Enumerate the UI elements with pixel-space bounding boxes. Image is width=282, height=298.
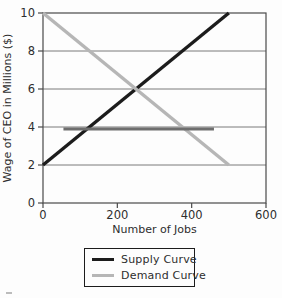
y-tick-label: 0 [28,196,35,210]
x-tick-label: 600 [255,208,277,222]
legend-item-supply: Supply Curve [92,254,194,265]
legend-item-demand: Demand Curve [92,270,194,281]
x-tick-label: 200 [106,208,128,222]
legend-label-supply: Supply Curve [121,254,197,265]
supply-line-swatch [92,258,114,262]
x-tick-label: 400 [181,208,203,222]
supply-demand-chart: 02468100200400600Number of JobsWage of C… [0,0,282,242]
x-tick-label: 0 [39,208,46,222]
y-tick-label: 4 [28,120,35,134]
y-axis-label: Wage of CEO in Millions ($) [1,34,14,183]
y-tick-label: 8 [28,44,35,58]
chart-canvas: 02468100200400600Number of JobsWage of C… [0,0,282,242]
y-tick-label: 6 [28,82,35,96]
legend-box: Supply Curve Demand Curve [84,248,195,287]
scan-artifact-mark [6,292,12,294]
chart-page: 02468100200400600Number of JobsWage of C… [0,0,282,298]
y-tick-label: 2 [28,158,35,172]
demand-line-swatch [92,274,114,278]
x-axis-label: Number of Jobs [112,223,197,236]
legend-label-demand: Demand Curve [121,270,206,281]
y-tick-label: 10 [20,6,35,20]
